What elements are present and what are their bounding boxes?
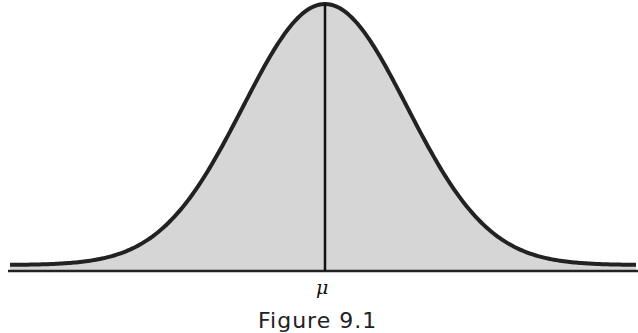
mean-label: μ — [316, 276, 328, 298]
curve-shaded-area — [10, 4, 636, 271]
figure-caption: Figure 9.1 — [258, 308, 377, 333]
